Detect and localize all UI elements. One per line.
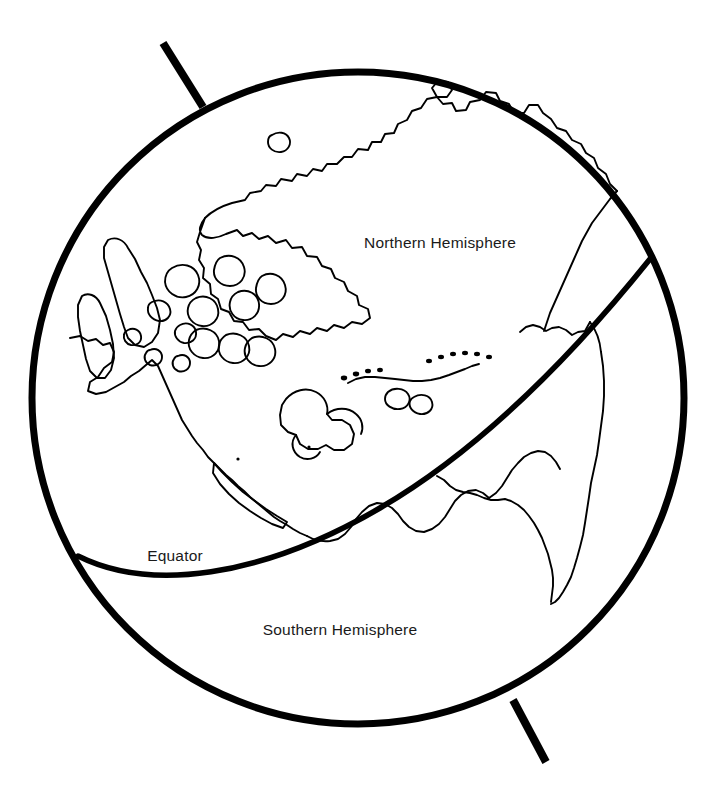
interior-lake-dot-2 [307,445,310,448]
interior-lake-dot [236,457,239,460]
rotation-axis-south-icon [513,700,546,762]
northern-hemisphere-label: Northern Hemisphere [364,234,516,251]
equator-label: Equator [147,547,203,564]
globe-illustration: Northern Hemisphere Equator Southern Hem… [0,0,724,803]
globe-diagram-canvas: Northern Hemisphere Equator Southern Hem… [0,0,724,803]
rotation-axis-north-icon [163,43,203,107]
southern-hemisphere-label: Southern Hemisphere [263,621,418,638]
